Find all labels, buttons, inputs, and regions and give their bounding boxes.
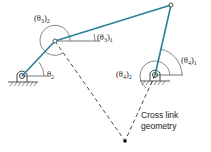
arc-theta3-1 [94, 34, 95, 41]
joint-b [169, 3, 173, 7]
linkage-diagram: (θ3)2 (θ3)1 θ2 (θ4)2 (θ4)1 Cross link ge… [0, 0, 211, 152]
link-rocker [155, 5, 171, 75]
ground-left [8, 82, 38, 86]
arc-theta2 [39, 62, 44, 76]
dashed-link-crank [55, 41, 125, 141]
label-theta3-2: (θ3)2 [34, 13, 50, 24]
caption-line2: geometry [141, 121, 177, 131]
label-theta3-1: (θ3)1 [97, 32, 113, 43]
arc-theta4-1 [160, 49, 182, 75]
ground-right [140, 81, 170, 85]
joint-a [53, 39, 57, 43]
dashed-link-rocker [125, 75, 155, 141]
caption-line1: Cross link [141, 110, 179, 120]
label-theta4-1: (θ4)1 [181, 55, 197, 66]
label-theta2: θ2 [47, 69, 54, 80]
label-theta4-2: (θ4)2 [116, 69, 132, 80]
crossed-joint [123, 139, 127, 143]
link-coupler [55, 5, 171, 41]
